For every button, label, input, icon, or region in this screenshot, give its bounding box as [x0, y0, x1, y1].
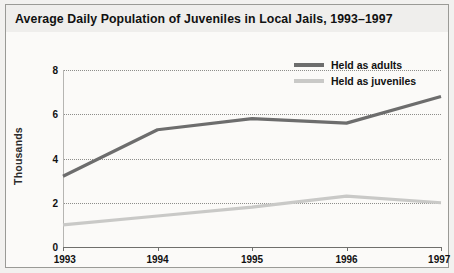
x-axis-tick-label: 1994 [146, 254, 168, 265]
chart-figure: Average Daily Population of Juveniles in… [0, 0, 454, 273]
x-axis-tick-mark [441, 247, 442, 251]
x-axis-tick-mark [347, 247, 348, 251]
chart-title-bar: Average Daily Population of Juveniles in… [6, 5, 448, 33]
legend-label-juveniles: Held as juveniles [331, 75, 416, 87]
legend-label-adults: Held as adults [331, 59, 402, 71]
x-axis-tick-label: 1993 [54, 254, 76, 265]
x-axis-tick-mark [252, 247, 253, 251]
legend-swatch-adults [294, 63, 324, 67]
plot-area: Thousands 02468 Held as adults Held as j… [6, 32, 448, 267]
x-axis-tick-mark [63, 247, 64, 251]
legend-item-held-as-adults: Held as adults [294, 59, 416, 71]
legend-item-held-as-juveniles: Held as juveniles [294, 75, 416, 87]
page-title: Average Daily Population of Juveniles in… [6, 12, 393, 26]
series-line-held-as-juveniles [63, 196, 441, 225]
x-axis-tick-label: 1996 [335, 254, 357, 265]
x-axis-tick-label: 1997 [428, 254, 450, 265]
legend-swatch-juveniles [294, 79, 324, 83]
x-axis-tick-mark [158, 247, 159, 251]
series-line-held-as-adults [63, 97, 441, 177]
chart-frame: Average Daily Population of Juveniles in… [5, 4, 449, 268]
x-axis-tick-label: 1995 [241, 254, 263, 265]
chart-legend: Held as adults Held as juveniles [294, 59, 416, 87]
